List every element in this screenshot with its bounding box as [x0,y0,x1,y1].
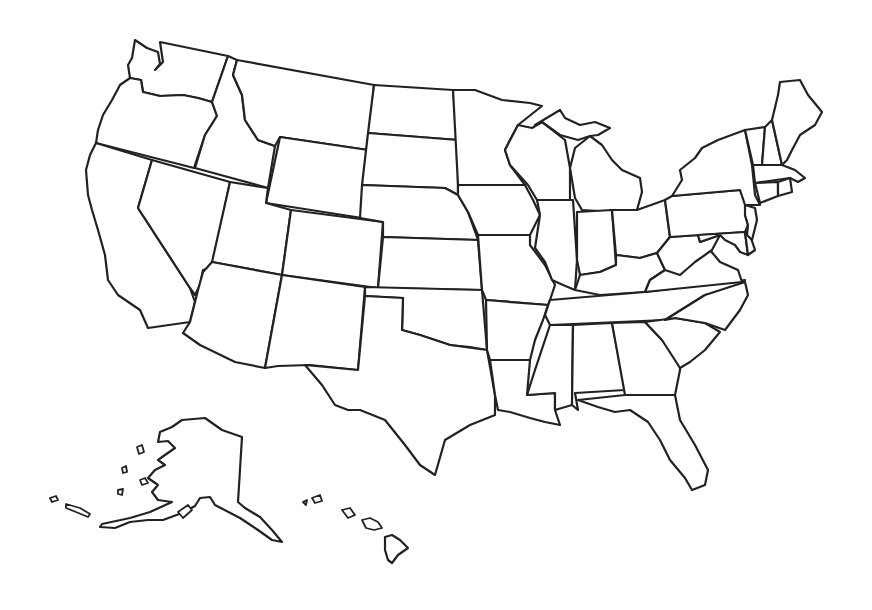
states-layer [86,40,822,563]
state-mi [570,136,642,212]
state-wy [266,137,368,218]
state-ct [755,182,778,203]
island-ak-aleutian-1 [50,496,58,502]
island-hi-oahu [342,508,355,518]
state-ks [378,237,482,290]
state-me [772,80,822,165]
state-hi [385,535,408,563]
island-hi-kauai [312,495,322,503]
state-ri [778,178,792,196]
state-pa [665,190,748,237]
state-nj [745,205,757,240]
island-ak-aleutian-2 [66,504,90,517]
state-ar [486,300,548,360]
state-in [577,210,616,275]
state-ma [753,165,805,183]
island-ak-island-2 [122,466,127,473]
island-ak-island-3 [140,478,148,485]
state-nm [265,275,365,370]
state-fl [578,395,708,490]
island-ak-island-1 [137,445,144,454]
state-ak [100,418,282,542]
island-hi-maui [362,518,382,530]
us-states-map [0,0,872,610]
island-hi-niihau [303,500,307,505]
island-ak-island-4 [118,489,123,495]
state-nd [368,85,458,140]
